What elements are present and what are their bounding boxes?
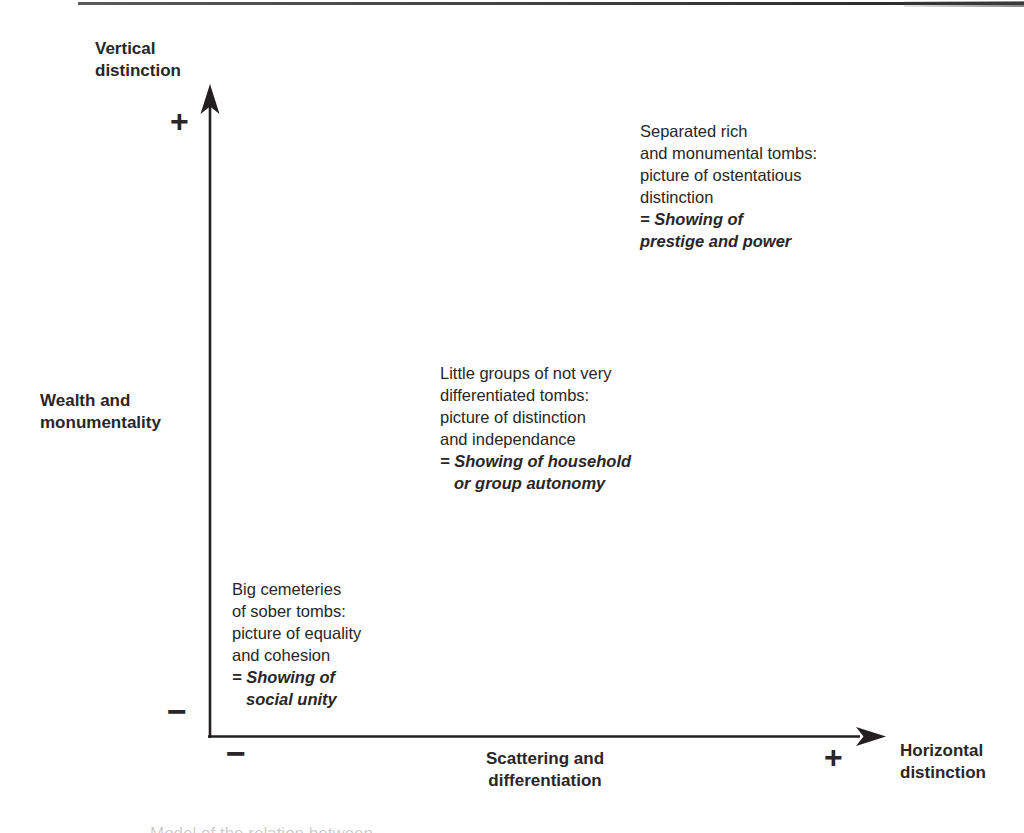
vertical-axis-side-label-line2: monumentality [40,412,161,434]
vertical-axis-side-label: Wealth and monumentality [40,390,161,434]
note-mid-distinction: Little groups of not very differentiated… [440,362,631,494]
horizontal-axis-title: Horizontal distinction [900,740,986,784]
note-low-distinction: Big cemeteries of sober tombs: picture o… [232,578,361,710]
note-line: Separated rich [640,120,817,142]
note-line: Little groups of not very [440,362,631,384]
vertical-axis-side-label-line1: Wealth and [40,390,161,412]
note-line: distinction [640,186,817,208]
note-line: of sober tombs: [232,600,361,622]
horizontal-axis-plus-sign: + [824,742,843,772]
cropped-caption: Model of the relation between [150,824,910,833]
horizontal-axis-minus-sign: − [226,738,246,768]
horizontal-axis-arrowhead-icon [856,727,886,746]
horizontal-axis-center-label-line2: differentiation [452,770,638,792]
vertical-axis-minus-sign: − [167,696,187,726]
vertical-axis-title-line1: Vertical [95,38,181,60]
vertical-axis-title-line2: distinction [95,60,181,82]
note-line: and cohesion [232,644,361,666]
note-line: differentiated tombs: [440,384,631,406]
vertical-axis-plus-sign: + [170,106,189,136]
note-line: Big cemeteries [232,578,361,600]
note-emphasis-line: = Showing of household [440,450,631,472]
note-high-distinction: Separated rich and monumental tombs: pic… [640,120,817,252]
note-emphasis-line: = Showing of [640,208,817,230]
note-emphasis-line: prestige and power [640,230,817,252]
scanned-diagram-page: Vertical distinction Wealth and monument… [0,0,1024,833]
note-emphasis-line: or group autonomy [440,472,631,494]
vertical-axis-title: Vertical distinction [95,38,181,82]
note-line: picture of equality [232,622,361,644]
horizontal-axis-center-label: Scattering and differentiation [452,748,638,792]
horizontal-axis-center-label-line1: Scattering and [452,748,638,770]
note-line: and monumental tombs: [640,142,817,164]
horizontal-axis-title-line2: distinction [900,762,986,784]
horizontal-axis-title-line1: Horizontal [900,740,986,762]
note-line: picture of distinction [440,406,631,428]
note-line: and independance [440,428,631,450]
note-emphasis-line: = Showing of [232,666,361,688]
note-emphasis-line: social unity [232,688,361,710]
note-line: picture of ostentatious [640,164,817,186]
